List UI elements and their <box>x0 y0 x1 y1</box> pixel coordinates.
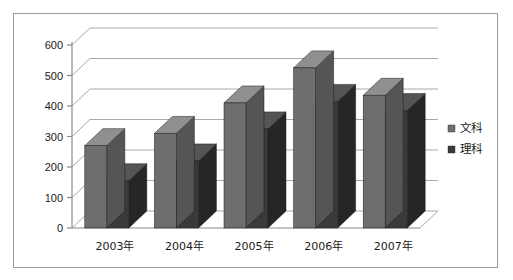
bar-side-face <box>107 129 125 228</box>
y-axis-tick-label: 500 <box>45 70 63 82</box>
legend-swatch <box>448 125 455 132</box>
bar-side-face <box>316 51 334 228</box>
bar-side-face <box>407 94 425 228</box>
bar-side-face <box>338 84 356 228</box>
x-axis-tick-label: 2007年 <box>374 239 413 253</box>
legend-group: 文科理科 <box>448 121 483 156</box>
legend-label: 文科 <box>460 121 483 135</box>
axis-group <box>67 42 72 228</box>
chart-container: 01002003004005006002003年2004年2005年2006年2… <box>0 0 513 280</box>
y-axis-tick-label: 600 <box>45 39 63 51</box>
y-axis-tick-label: 200 <box>45 161 63 173</box>
bar-side-face <box>268 112 286 228</box>
x-axis-tick-label: 2003年 <box>95 239 134 253</box>
gridline <box>72 59 438 76</box>
legend-label: 理科 <box>460 142 483 156</box>
bar-side-face <box>176 116 194 228</box>
bar-chart-3d: 01002003004005006002003年2004年2005年2006年2… <box>0 0 513 280</box>
bar-文科[interactable] <box>363 78 403 228</box>
gridline <box>72 28 438 45</box>
bar-文科[interactable] <box>294 51 334 228</box>
bar-文科[interactable] <box>154 116 194 228</box>
x-axis-tick-label: 2005年 <box>235 239 274 253</box>
y-axis-tick-label: 400 <box>45 100 63 112</box>
bar-front-face <box>224 103 246 228</box>
bar-side-face <box>246 86 264 228</box>
x-axis-tick-label: 2004年 <box>165 239 204 253</box>
y-axis-tick-label: 0 <box>57 222 63 234</box>
bar-front-face <box>85 146 107 228</box>
y-axis-tick-label: 300 <box>45 131 63 143</box>
bar-文科[interactable] <box>85 129 125 228</box>
bar-front-face <box>154 133 176 228</box>
bar-front-face <box>363 95 385 228</box>
bars-group <box>85 51 425 228</box>
bar-文科[interactable] <box>224 86 264 228</box>
bar-front-face <box>294 68 316 228</box>
y-axis-tick-label: 100 <box>45 192 63 204</box>
x-axis-tick-label: 2006年 <box>304 239 343 253</box>
legend-swatch <box>448 146 455 153</box>
bar-side-face <box>385 78 403 228</box>
